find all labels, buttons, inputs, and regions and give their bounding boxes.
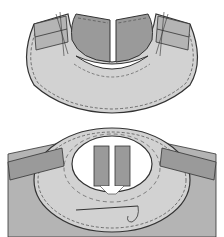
neck-opening <box>72 136 152 192</box>
facing-diagram <box>0 0 224 118</box>
facing-illustration-step-1 <box>0 0 224 118</box>
facing-illustration-step-2 <box>0 118 224 237</box>
facing-stitching-diagram <box>0 118 224 237</box>
